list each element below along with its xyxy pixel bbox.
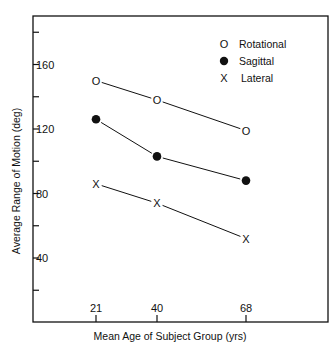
data-point: [92, 115, 101, 124]
plot-frame: [33, 16, 328, 322]
data-point: O: [242, 125, 251, 137]
x-tick-label: 68: [240, 302, 252, 314]
series-layer: OOOXXX: [92, 75, 251, 245]
series-sagittal: [92, 115, 251, 185]
series-lateral: XXX: [92, 178, 250, 245]
legend-label-lateral: Lateral: [241, 72, 273, 84]
y-tick-label: 80: [36, 188, 48, 200]
data-point: X: [242, 233, 250, 245]
series-line: [163, 205, 241, 236]
series-line: [102, 186, 152, 202]
y-axis-label: Average Range of Motion (deg): [10, 108, 22, 254]
y-tick-label: 40: [36, 252, 48, 264]
data-point: X: [92, 178, 100, 190]
data-point: X: [153, 197, 161, 209]
y-tick-label: 160: [36, 59, 54, 71]
legend-label-sagittal: Sagittal: [239, 55, 274, 67]
x-tick-label: 40: [151, 302, 163, 314]
x-axis-label: Mean Age of Subject Group (yrs): [94, 330, 247, 342]
data-point: [153, 152, 162, 161]
line-chart: 4080120160 214068 OOOXXX Average Range o…: [0, 0, 336, 347]
data-point: [242, 176, 251, 185]
series-line: [163, 102, 241, 129]
y-axis-ticks: 4080120160: [33, 32, 54, 290]
series-line: [102, 82, 152, 98]
legend: O Rotational Sagittal X Lateral: [220, 38, 287, 84]
series-line: [163, 158, 240, 179]
y-tick-label: 120: [36, 123, 54, 135]
legend-symbol-sagittal: [220, 57, 228, 65]
data-point: O: [153, 94, 162, 106]
x-axis-ticks: 214068: [90, 302, 252, 322]
series-line: [101, 122, 152, 153]
legend-label-rotational: Rotational: [239, 38, 286, 50]
legend-symbol-lateral: X: [220, 72, 228, 84]
legend-symbol-rotational: O: [220, 38, 229, 50]
data-point: O: [92, 75, 101, 87]
x-tick-label: 21: [90, 302, 102, 314]
